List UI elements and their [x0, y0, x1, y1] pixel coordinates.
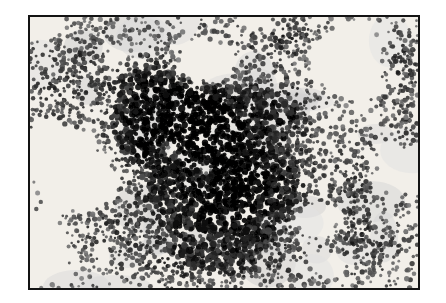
micrograph-frame — [28, 15, 420, 290]
page — [0, 0, 446, 303]
micrograph-image — [30, 17, 418, 288]
